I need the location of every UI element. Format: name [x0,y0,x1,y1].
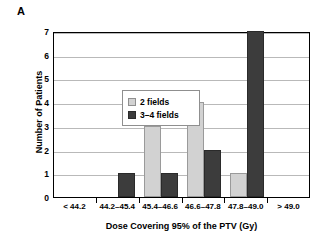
x-axis-title: Dose Covering 95% of the PTV (Gy) [53,221,310,231]
panel-label: A [17,5,25,17]
plot-area: 2 fields 3–4 fields [53,32,310,198]
y-tick-label: 0 [23,194,49,202]
legend-item-3-4-fields: 3–4 fields [128,108,194,121]
legend-label-2-fields: 2 fields [140,97,169,107]
x-tick-label: 45.4–46.6 [139,202,182,212]
figure-panel-a: A Number of Patients 01234567 2 fields 3… [0,0,325,243]
legend-swatch-icon-3-4-fields [128,111,136,119]
bar [230,173,247,197]
x-tick-label: 47.8–49.0 [224,202,267,212]
bar [204,150,221,197]
bar [161,173,178,197]
x-tick-label: > 49.0 [267,202,310,212]
legend-item-2-fields: 2 fields [128,95,194,108]
legend-swatch-icon-2-fields [128,98,136,106]
x-tick-label: 46.6–47.8 [182,202,225,212]
legend-label-3-4-fields: 3–4 fields [140,110,179,120]
bar [118,173,135,197]
x-tick-label: 44.2–45.4 [96,202,139,212]
y-axis-title: Number of Patients [34,37,44,187]
legend: 2 fields 3–4 fields [122,90,200,126]
bar [144,126,161,197]
bar [247,31,264,197]
y-tick-label: 7 [23,28,49,36]
x-tick-label: < 44.2 [53,202,96,212]
